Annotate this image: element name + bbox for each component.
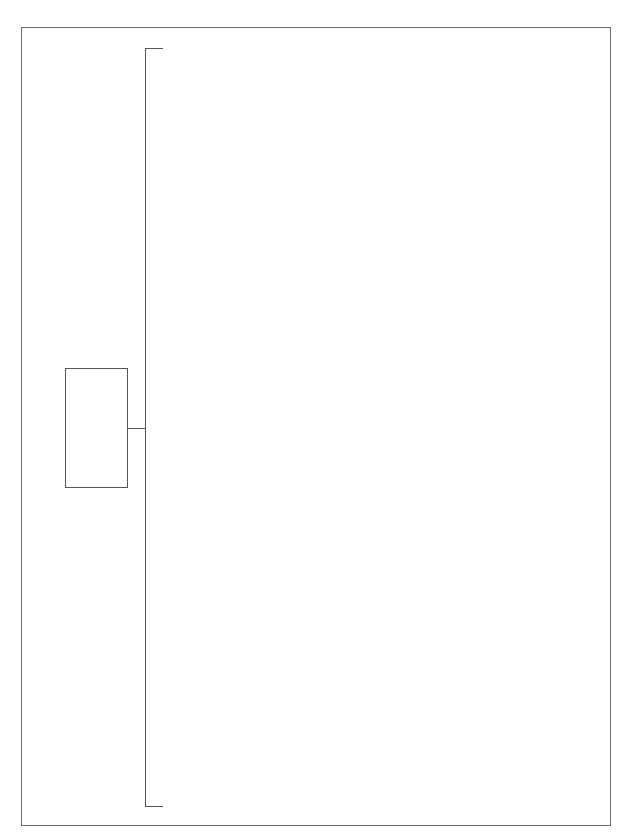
branch-bracket-spine (145, 48, 146, 807)
branch-stub-bottom (145, 806, 163, 807)
diagram-canvas (0, 0, 623, 840)
root-node-box (65, 368, 128, 488)
root-connector-line (128, 428, 145, 429)
branch-stub-top (145, 48, 163, 49)
